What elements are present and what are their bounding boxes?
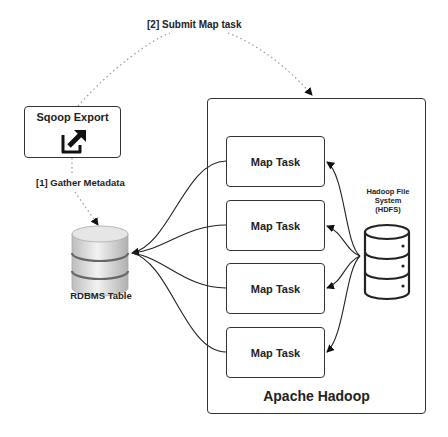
- map-task-label: Map Task: [251, 283, 300, 295]
- sqoop-export-label: Sqoop Export: [25, 111, 120, 123]
- map-task-label: Map Task: [251, 220, 300, 232]
- map-task-1[interactable]: Map Task: [226, 136, 325, 187]
- gather-metadata-label: [1] Gather Metadata: [36, 177, 125, 188]
- database-icon: [72, 226, 128, 296]
- map-task-3[interactable]: Map Task: [226, 263, 325, 314]
- map-task-2[interactable]: Map Task: [226, 200, 325, 251]
- rdbms-table-label: RDBMS Table: [66, 290, 136, 301]
- hdfs-label-line3: (HDFS): [358, 205, 418, 214]
- submit-map-task-connector: [78, 33, 170, 106]
- apache-hadoop-label: Apache Hadoop: [208, 388, 425, 404]
- hdfs-label-line2: System: [358, 196, 418, 205]
- sqoop-export-node[interactable]: Sqoop Export: [24, 106, 121, 158]
- hdfs-label: Hadoop File System (HDFS): [358, 187, 418, 214]
- map-task-label: Map Task: [251, 156, 300, 168]
- hdfs-label-line1: Hadoop File: [358, 187, 418, 196]
- map-task-label: Map Task: [251, 347, 300, 359]
- submit-map-task-label: [2] Submit Map task: [147, 19, 241, 30]
- external-link-icon: [59, 127, 89, 155]
- map-task-4[interactable]: Map Task: [226, 327, 325, 378]
